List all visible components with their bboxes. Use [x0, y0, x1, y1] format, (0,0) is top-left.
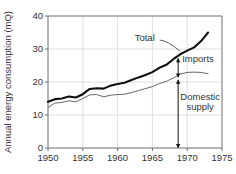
- x-tick-label: 1955: [72, 152, 93, 163]
- y-tick-label: 30: [32, 43, 43, 54]
- y-tick-label: 40: [32, 10, 43, 21]
- y-axis-title: Annual energy consumption (mQ): [2, 11, 13, 153]
- imports-label: Imports: [182, 53, 214, 64]
- chart-canvas: 010203040 195019551960196519701975 Total…: [0, 0, 236, 174]
- energy-consumption-chart: 010203040 195019551960196519701975 Total…: [0, 0, 236, 174]
- y-tick-label: 10: [32, 109, 43, 120]
- y-tick-label: 20: [32, 76, 43, 87]
- x-tick-label: 1965: [142, 152, 163, 163]
- x-tick-label: 1970: [177, 152, 198, 163]
- x-tick-label: 1950: [37, 152, 58, 163]
- x-tick-label: 1975: [211, 152, 232, 163]
- total-label: Total: [135, 32, 155, 43]
- domestic-supply-label-line2: supply: [186, 101, 214, 112]
- x-tick-label: 1960: [107, 152, 128, 163]
